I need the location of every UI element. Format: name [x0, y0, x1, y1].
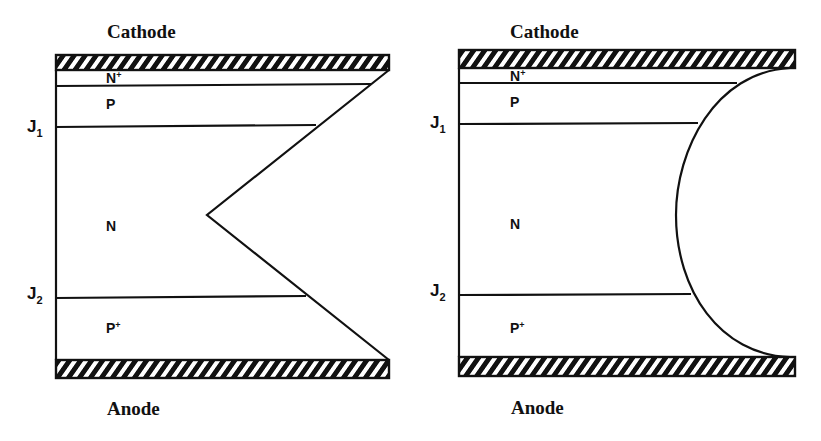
anode-contact-hatched — [459, 357, 795, 376]
region-p-label: P — [510, 94, 519, 110]
cathode-contact-hatched — [459, 50, 795, 68]
region-n-label: N — [510, 216, 520, 232]
region-p-label: P — [106, 96, 115, 112]
region-n-plus-label: N+ — [106, 70, 121, 86]
junction-j2-line — [56, 296, 306, 298]
thyristor-edge-diagrams: Cathode Anode N+ P N P+ J1 J2 Cathode — [0, 0, 821, 441]
junction-j2-label: J2 — [430, 281, 446, 303]
junction-j1-line — [459, 123, 698, 124]
junction-j1-label: J1 — [430, 113, 446, 135]
anode-label: Anode — [511, 397, 564, 418]
cathode-contact-hatched — [56, 55, 389, 70]
junction-j1-line — [56, 125, 316, 127]
cathode-label: Cathode — [107, 21, 176, 42]
bevel-edge-profile — [207, 70, 389, 360]
junction-j2-line — [459, 294, 691, 295]
anode-contact-hatched — [56, 360, 389, 378]
region-p-plus-label: P+ — [106, 320, 121, 336]
diagram-left-bevel: Cathode Anode N+ P N P+ J1 J2 — [27, 21, 389, 419]
cathode-label: Cathode — [510, 21, 579, 42]
junction-j1-label: J1 — [27, 117, 43, 139]
n-plus-p-boundary — [56, 84, 371, 86]
region-p-plus-label: P+ — [510, 320, 525, 336]
anode-label: Anode — [107, 398, 160, 419]
junction-j2-label: J2 — [27, 284, 43, 306]
diagram-right-contoured: Cathode Anode N+ P N P+ J1 J2 — [430, 21, 795, 418]
region-n-plus-label: N+ — [510, 68, 525, 84]
region-n-label: N — [106, 218, 116, 234]
contoured-edge-profile — [676, 68, 790, 357]
